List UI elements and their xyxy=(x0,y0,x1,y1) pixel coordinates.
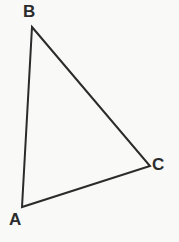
vertex-label-b: B xyxy=(23,3,35,20)
vertex-label-a: A xyxy=(9,211,21,228)
geometry-figure: B C A xyxy=(0,0,179,242)
vertex-label-c: C xyxy=(152,156,164,173)
triangle-diagram xyxy=(0,0,179,242)
